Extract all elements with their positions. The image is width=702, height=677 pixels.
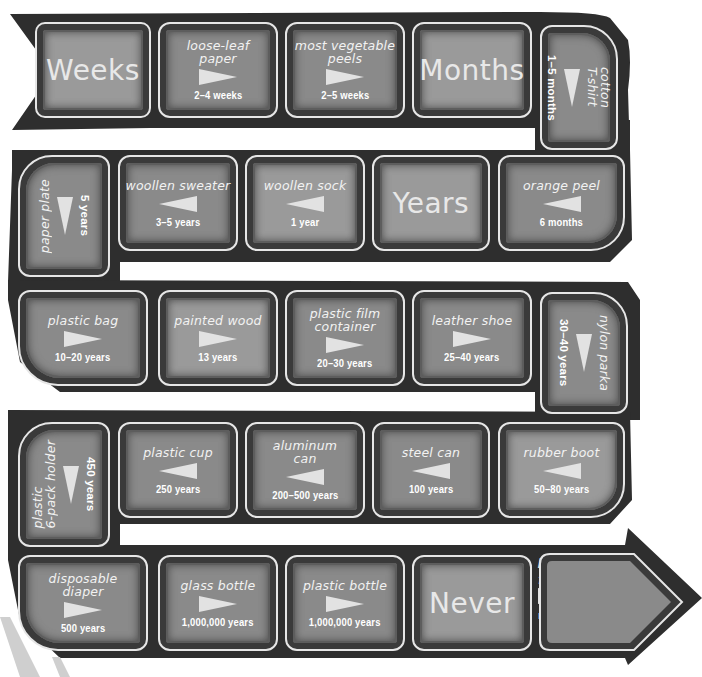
tile-nylon-parka: 30–40 years nylon parka <box>540 292 628 414</box>
duration-label: 25–40 years <box>444 351 499 363</box>
header-label: Months <box>419 54 524 87</box>
tile-orange-peel: orange peel 6 months <box>498 155 625 251</box>
item-label: woollen sock <box>264 179 347 192</box>
duration-label: 20–30 years <box>317 357 372 369</box>
tile-woollen-sweater: woollen sweater 3–5 years <box>118 155 238 251</box>
item-label: cottonT-shirt <box>586 67 612 108</box>
tile-steel-can: steel can 100 years <box>372 422 490 518</box>
arrow-left-icon <box>159 196 197 212</box>
item-label: plastic6-pack holder <box>31 440 57 529</box>
item-label: plastic cup <box>143 446 213 459</box>
decomposition-timeline-board: Weeks loose-leafpaper 2–4 weeks most veg… <box>0 0 702 677</box>
item-label: plastic bottle <box>303 579 387 592</box>
item-label: loose-leafpaper <box>187 39 250 65</box>
header-tile-weeks: Weeks <box>35 22 151 118</box>
arrow-right-icon <box>64 331 102 347</box>
duration-label: 2–4 weeks <box>194 89 242 101</box>
arrow-right-icon <box>199 331 237 347</box>
duration-label: 1,000,000 years <box>182 616 254 628</box>
final-arrow-tile-shape <box>538 550 688 654</box>
arrow-left-icon <box>543 463 581 479</box>
arrow-right-icon <box>326 596 364 612</box>
item-label: nylon parka <box>598 315 611 391</box>
item-label: leather shoe <box>432 314 513 327</box>
tile-leather-shoe: leather shoe 25–40 years <box>412 290 532 386</box>
item-label: plastic bag <box>48 314 119 327</box>
item-label: disposablediaper <box>49 572 118 598</box>
item-label: glass bottle <box>180 579 255 592</box>
item-label: aluminumcan <box>273 439 337 465</box>
header-label: Years <box>393 187 469 220</box>
duration-label: 10–20 years <box>55 351 110 363</box>
arrow-right-icon <box>199 596 237 612</box>
duration-label: 13 years <box>198 351 237 363</box>
tile-rubber-boot: rubber boot 50–80 years <box>498 422 625 518</box>
tile-aluminum-can: aluminumcan 200–500 years <box>245 422 365 518</box>
arrow-left-icon <box>543 196 581 212</box>
duration-label: 1,000,000 years <box>309 616 381 628</box>
item-label: paper plate <box>38 179 51 253</box>
decorative-stripes <box>0 617 80 677</box>
tile-cotton-t-shirt: 1–5 months cottonT-shirt <box>540 25 618 150</box>
tile-glass-bottle: glass bottle 1,000,000 years <box>158 555 278 651</box>
header-tile-years: Years <box>372 155 490 251</box>
tile-polystyrene-foam-cup: polystyrenefoam cup never <box>538 550 688 654</box>
duration-label: 5 years <box>79 195 91 236</box>
item-label: most vegetablepeels <box>295 39 395 65</box>
header-label: Never <box>429 587 515 620</box>
duration-label: 1–5 months <box>546 55 558 121</box>
tile-plastic-cup: plastic cup 250 years <box>118 422 238 518</box>
header-label: Weeks <box>46 54 140 87</box>
duration-label: 30–40 years <box>558 319 570 386</box>
duration-label: 100 years <box>409 483 453 495</box>
duration-label: 1 year <box>291 216 319 228</box>
item-label: painted wood <box>174 314 261 327</box>
tile-plastic-film-container: plastic filmcontainer 20–30 years <box>285 290 405 386</box>
item-label: plastic filmcontainer <box>310 307 381 333</box>
duration-label: 6 months <box>540 216 583 228</box>
duration-label: 250 years <box>156 483 200 495</box>
tile-plastic-bag: plastic bag 10–20 years <box>18 290 148 386</box>
arrow-right-icon <box>64 602 102 618</box>
duration-label: 2–5 weeks <box>321 89 369 101</box>
arrow-left-icon <box>412 463 450 479</box>
tile-paper-plate: paper plate 5 years <box>18 155 110 277</box>
item-label: woollen sweater <box>126 179 231 192</box>
tile-woollen-sock: woollen sock 1 year <box>245 155 365 251</box>
arrow-right-icon <box>453 331 491 347</box>
duration-label: 50–80 years <box>534 483 589 495</box>
duration-label: 450 years <box>85 457 97 511</box>
arrow-down-icon <box>576 334 592 372</box>
item-label: steel can <box>402 446 461 459</box>
tile-loose-leaf-paper: loose-leafpaper 2–4 weeks <box>158 22 278 118</box>
duration-label: 3–5 years <box>156 216 200 228</box>
arrow-down-icon <box>564 69 580 107</box>
tile-plastic-6-pack-holder: plastic6-pack holder 450 years <box>18 422 110 547</box>
tile-vegetable-peels: most vegetablepeels 2–5 weeks <box>285 22 405 118</box>
arrow-left-icon <box>159 463 197 479</box>
arrow-left-icon <box>286 469 324 485</box>
arrow-right-icon <box>326 69 364 85</box>
arrow-down-icon <box>57 197 73 235</box>
tile-plastic-bottle: plastic bottle 1,000,000 years <box>285 555 405 651</box>
arrow-down-icon <box>63 466 79 504</box>
item-label: orange peel <box>523 179 600 192</box>
header-tile-months: Months <box>412 22 532 118</box>
header-tile-never: Never <box>412 555 532 651</box>
duration-label: 200–500 years <box>272 489 338 501</box>
item-label: rubber boot <box>523 446 599 459</box>
arrow-right-icon <box>199 69 237 85</box>
arrow-right-icon <box>326 337 364 353</box>
arrow-left-icon <box>286 196 324 212</box>
tile-painted-wood: painted wood 13 years <box>158 290 278 386</box>
